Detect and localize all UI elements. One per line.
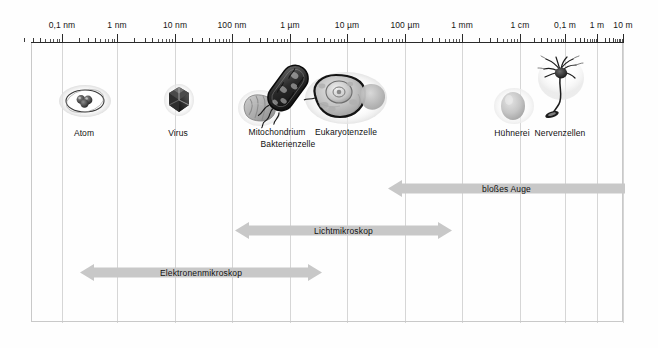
axis-major-tick (597, 34, 598, 43)
axis-major-tick (347, 34, 348, 43)
axis-minor-tick (112, 39, 113, 42)
specimen-label-nervenzellen: Nervenzellen (535, 128, 586, 138)
axis-minor-tick (145, 38, 146, 42)
method-arrow-lichtmikroskop: Lichtmikroskop (235, 222, 452, 239)
axis-minor-tick (399, 39, 400, 42)
axis-minor-tick (338, 39, 339, 42)
axis-minor-tick (439, 38, 440, 42)
axis-minor-tick (330, 39, 331, 42)
axis-minor-tick (158, 39, 159, 42)
axis-minor-tick (53, 39, 54, 42)
axis-minor-tick (479, 38, 480, 42)
axis-minor-tick (284, 39, 285, 42)
method-arrow-blosses-auge: bloßes Auge (388, 180, 625, 197)
specimen-label-bakterienzelle: Bakterienzelle (261, 139, 316, 149)
specimen-label-mitochondrium: Mitochondrium (248, 127, 305, 137)
axis-minor-tick (584, 38, 585, 42)
axis-tick-label: 0,1 nm (49, 20, 76, 30)
specimen-label-huehnerei: Hühnerei (494, 128, 529, 138)
axis-minor-tick (490, 38, 491, 42)
axis-tick-label: 10 nm (163, 20, 187, 30)
axis-minor-tick (534, 38, 535, 42)
axis-major-tick (462, 34, 463, 43)
axis-minor-tick (59, 39, 60, 42)
axis-minor-tick (281, 39, 282, 42)
axis-minor-tick (219, 39, 220, 42)
axis-minor-tick (273, 39, 274, 42)
specimen-label-atom: Atom (74, 128, 94, 138)
axis-minor-tick (57, 39, 58, 42)
axis-minor-tick (507, 39, 508, 42)
scale-diagram: 0,1 nm1 nm10 nm100 nm1 µm10 µm100 µm1 mm… (0, 0, 658, 348)
axis-minor-tick (605, 38, 606, 42)
axis-minor-tick (392, 39, 393, 42)
axis-minor-tick (88, 38, 89, 42)
axis-minor-tick (192, 38, 193, 42)
axis-minor-tick (432, 38, 433, 42)
axis-minor-tick (105, 39, 106, 42)
axis-minor-tick (555, 39, 556, 42)
axis-minor-tick (517, 39, 518, 42)
axis-major-tick (623, 34, 624, 43)
axis-minor-tick (215, 39, 216, 42)
axis-tick-label: 10 m (613, 20, 632, 30)
axis-tick-label: 100 µm (390, 20, 419, 30)
axis-minor-tick (459, 39, 460, 42)
axis-minor-tick (202, 38, 203, 42)
axis-minor-tick (615, 39, 616, 42)
axis-tick-label: 1 µm (280, 20, 299, 30)
axis-major-tick (565, 34, 566, 43)
axis-minor-tick (613, 38, 614, 42)
axis-minor-tick (334, 39, 335, 42)
axis-minor-tick (547, 38, 548, 42)
axis-minor-tick (402, 39, 403, 42)
axis-minor-tick (209, 38, 210, 42)
axis-minor-tick (558, 39, 559, 42)
axis-minor-tick (24, 38, 25, 42)
axis-major-tick (117, 34, 118, 43)
axis-minor-tick (445, 39, 446, 42)
axis-minor-tick (226, 39, 227, 42)
eukaryotenzelle-illustration (306, 72, 388, 124)
axis-minor-tick (449, 39, 450, 42)
axis-minor-tick (396, 39, 397, 42)
axis-tick-label: 1 nm (107, 20, 126, 30)
axis-minor-tick (95, 38, 96, 42)
axis-baseline (31, 42, 623, 43)
axis-tick-label: 1 m (590, 20, 604, 30)
axis-major-tick (62, 34, 63, 43)
axis-minor-tick (249, 38, 250, 42)
axis-minor-tick (223, 39, 224, 42)
axis-minor-tick (324, 38, 325, 42)
axis-minor-tick (541, 38, 542, 42)
axis-minor-tick (307, 38, 308, 42)
axis-minor-tick (166, 39, 167, 42)
axis-minor-tick (169, 39, 170, 42)
specimen-label-virus: Virus (168, 128, 188, 138)
axis-minor-tick (50, 39, 51, 42)
axis-minor-tick (620, 39, 621, 42)
axis-tick-label: 0,1 m (554, 20, 576, 30)
axis-tick-label: 1 cm (511, 20, 530, 30)
axis-tick-label: 10 µm (335, 20, 359, 30)
specimen-label-eukaryotenzelle: Eukaryotenzelle (315, 127, 377, 137)
virus-illustration (164, 84, 194, 116)
axis-minor-tick (456, 39, 457, 42)
axis-tick-label: 100 nm (218, 20, 247, 30)
axis-minor-tick (277, 39, 278, 42)
axis-minor-tick (453, 39, 454, 42)
axis-minor-tick (609, 38, 610, 42)
axis-major-tick (232, 34, 233, 43)
atom-illustration (58, 84, 112, 118)
axis-major-tick (405, 34, 406, 43)
axis-major-tick (290, 34, 291, 43)
axis-minor-tick (100, 39, 101, 42)
axis-minor-tick (33, 38, 34, 42)
axis-major-tick (175, 34, 176, 43)
nervenzellen-illustration (538, 56, 584, 122)
axis-minor-tick (114, 39, 115, 42)
axis-minor-tick (563, 39, 564, 42)
axis-minor-tick (375, 38, 376, 42)
axis-minor-tick (551, 39, 552, 42)
method-arrow-elektronenmikroskop: Elektronenmikroskop (80, 264, 322, 281)
